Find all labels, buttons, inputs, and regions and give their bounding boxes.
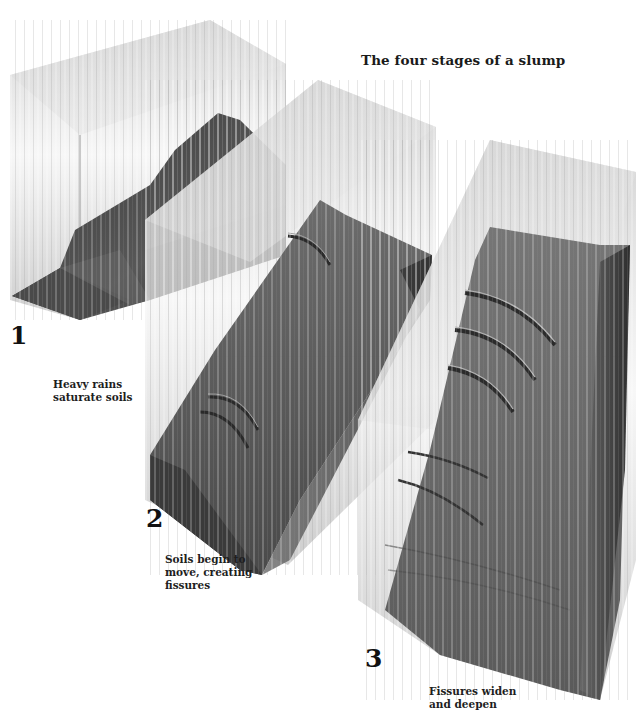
stage-2-number: 2 (146, 506, 163, 531)
stage-3-block (358, 140, 636, 700)
stage-2-caption: Soils begin to move, creating fissures (165, 553, 252, 592)
stage-3-caption-line-2: and deepen (429, 698, 516, 711)
stage-3-number: 3 (365, 646, 382, 671)
slump-stages-illustration: The four stages of a slump 1 Heavy rains… (0, 0, 644, 713)
stage-2-caption-line-3: fissures (165, 579, 252, 592)
stage-1-caption-line-2: saturate soils (53, 391, 133, 404)
stage-3-caption-line-1: Fissures widen (429, 685, 516, 698)
stage-2-caption-line-1: Soils begin to (165, 553, 252, 566)
stage-1-number: 1 (10, 323, 27, 348)
stage-2-caption-line-2: move, creating (165, 566, 252, 579)
stage-1-caption-line-1: Heavy rains (53, 378, 133, 391)
stage-1-caption: Heavy rains saturate soils (53, 378, 133, 404)
stage-3-caption: Fissures widen and deepen (429, 685, 516, 711)
figure-title: The four stages of a slump (361, 52, 565, 68)
